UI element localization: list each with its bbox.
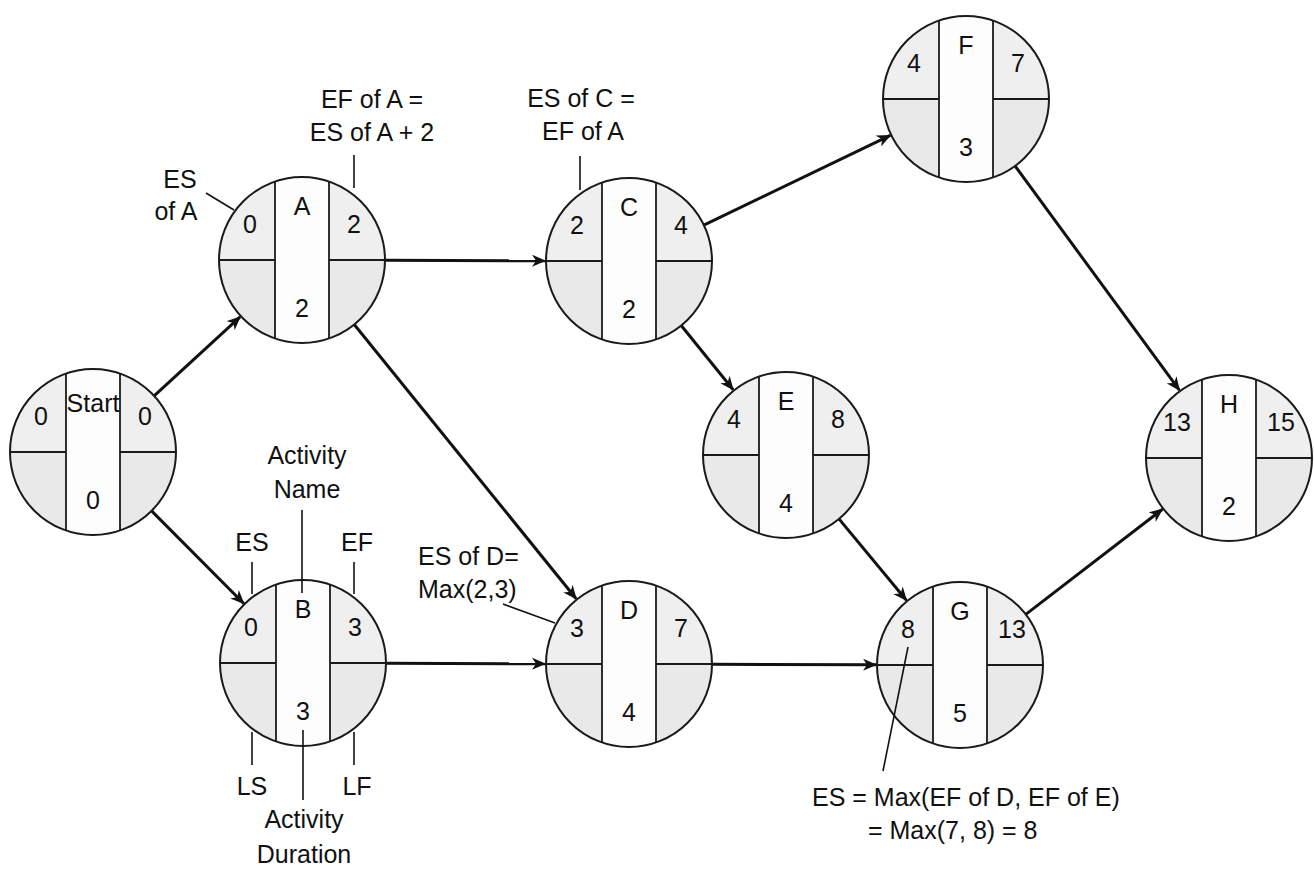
activity-duration-value: 4 xyxy=(622,698,636,726)
early-finish-value: 3 xyxy=(348,613,362,641)
early-finish-value: 7 xyxy=(1011,49,1025,77)
activity-name: A xyxy=(294,192,311,220)
annotation-es-of-d-line2: Max(2,3) xyxy=(418,575,517,603)
activity-name: E xyxy=(778,387,795,415)
node-f: F473 xyxy=(883,16,1049,182)
annotation-es-of-a-line2: of A xyxy=(154,197,197,225)
nodes-layer: Start000A022B033C242D374E484F473G8135H13… xyxy=(10,16,1312,748)
edge-start-to-a xyxy=(154,317,240,396)
annotation-es-of-d: ES of D= Max(2,3) xyxy=(418,542,555,623)
annotation-es-of-c-line2: EF of A xyxy=(542,117,624,145)
edge-g-to-h xyxy=(1026,509,1163,614)
annotation-activity-duration: Activity Duration xyxy=(257,730,352,868)
early-finish-value: 15 xyxy=(1267,408,1295,436)
node-g: G8135 xyxy=(877,582,1043,748)
annotation-ef: EF xyxy=(341,528,373,594)
annotation-es-of-a-line1: ES xyxy=(163,165,196,193)
early-finish-value: 7 xyxy=(674,614,688,642)
node-e: E484 xyxy=(703,372,869,538)
node-c: C242 xyxy=(546,178,712,344)
leader-line xyxy=(503,604,555,623)
annotation-ls-label: LS xyxy=(237,772,268,800)
activity-duration-value: 5 xyxy=(953,699,967,727)
node-a: A022 xyxy=(219,177,385,343)
activity-duration-value: 2 xyxy=(1222,492,1236,520)
annotation-es-of-g-line2: = Max(7, 8) = 8 xyxy=(868,816,1038,844)
early-start-value: 3 xyxy=(570,614,584,642)
activity-name: H xyxy=(1220,390,1238,418)
early-start-value: 13 xyxy=(1163,408,1191,436)
early-start-value: 0 xyxy=(34,402,48,430)
activity-name: C xyxy=(620,193,638,221)
early-start-value: 8 xyxy=(901,615,915,643)
early-start-value: 2 xyxy=(570,211,584,239)
annotation-es-of-a: ES of A xyxy=(154,165,234,225)
activity-duration-value: 3 xyxy=(959,133,973,161)
annotation-activity-name: Activity Name xyxy=(267,441,347,593)
early-start-value: 0 xyxy=(244,613,258,641)
edge-e-to-g xyxy=(839,519,906,600)
annotation-ef-of-a: EF of A = ES of A + 2 xyxy=(310,85,434,188)
annotation-es: ES xyxy=(235,528,268,594)
early-finish-value: 8 xyxy=(831,405,845,433)
annotation-es-of-c-line1: ES of C = xyxy=(527,84,635,112)
annotation-es-of-d-line1: ES of D= xyxy=(418,542,519,570)
annotation-activity-name-line2: Name xyxy=(274,475,341,503)
early-finish-value: 0 xyxy=(138,402,152,430)
annotation-lf-label: LF xyxy=(342,772,371,800)
early-finish-value: 4 xyxy=(674,211,688,239)
activity-duration-value: 0 xyxy=(86,486,100,514)
annotation-ef-label: EF xyxy=(341,528,373,556)
edge-c-to-f xyxy=(704,135,890,225)
annotation-ef-of-a-line1: EF of A = xyxy=(321,85,423,113)
annotation-activity-duration-line1: Activity xyxy=(264,805,344,833)
early-start-value: 0 xyxy=(243,210,257,238)
annotation-ls: LS xyxy=(237,732,268,800)
annotation-es-label: ES xyxy=(235,528,268,556)
annotation-activity-name-line1: Activity xyxy=(267,441,347,469)
annotation-activity-duration-line2: Duration xyxy=(257,840,352,868)
activity-name: Start xyxy=(67,389,120,417)
annotation-ef-of-a-line2: ES of A + 2 xyxy=(310,118,434,146)
annotation-lf: LF xyxy=(342,732,371,800)
cpm-network-diagram: Start000A022B033C242D374E484F473G8135H13… xyxy=(0,0,1314,883)
activity-duration-value: 2 xyxy=(622,295,636,323)
edge-f-to-h xyxy=(1015,166,1179,390)
node-b: B033 xyxy=(220,580,386,746)
early-finish-value: 13 xyxy=(998,615,1026,643)
node-d: D374 xyxy=(546,581,712,747)
leader-line xyxy=(206,193,234,210)
node-start: Start000 xyxy=(10,369,176,535)
activity-name: G xyxy=(950,597,969,625)
activity-name: B xyxy=(295,595,312,623)
node-h: H13152 xyxy=(1146,375,1312,541)
edge-start-to-b xyxy=(152,511,244,604)
activity-duration-value: 3 xyxy=(296,697,310,725)
activity-name: F xyxy=(958,31,973,59)
annotation-es-of-c: ES of C = EF of A xyxy=(527,84,635,190)
early-start-value: 4 xyxy=(727,405,741,433)
activity-duration-value: 4 xyxy=(779,489,793,517)
early-finish-value: 2 xyxy=(347,210,361,238)
activity-name: D xyxy=(620,596,638,624)
annotation-es-of-g-line1: ES = Max(EF of D, EF of E) xyxy=(812,783,1120,811)
edge-c-to-e xyxy=(681,326,733,390)
activity-duration-value: 2 xyxy=(295,294,309,322)
early-start-value: 4 xyxy=(907,49,921,77)
